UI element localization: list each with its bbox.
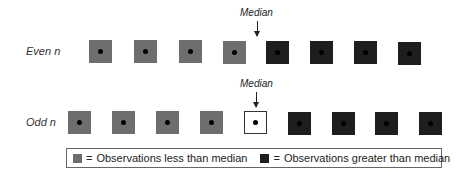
odd-median-observation <box>244 111 267 134</box>
even-observation-7 <box>354 41 377 64</box>
even-median-label: Median <box>240 7 273 18</box>
dot-icon <box>77 120 82 125</box>
legend: = Observations less than median = Observ… <box>66 148 442 168</box>
even-observation-3 <box>179 40 202 63</box>
less-swatch-icon <box>73 154 82 163</box>
dot-icon <box>165 120 170 125</box>
legend-greater-text: Observations greater than median <box>284 152 450 164</box>
dot-icon <box>143 49 148 54</box>
odd-observation-6 <box>288 112 311 135</box>
even-observation-1 <box>89 40 112 63</box>
dot-icon <box>253 120 258 125</box>
odd-observation-3 <box>156 111 179 134</box>
dot-icon <box>188 49 193 54</box>
dot-icon <box>363 50 368 55</box>
odd-observation-2 <box>112 111 135 134</box>
dot-icon <box>121 120 126 125</box>
odd-observation-1 <box>68 111 91 134</box>
odd-observation-8 <box>375 112 398 135</box>
dot-icon <box>275 50 280 55</box>
even-observation-4 <box>223 41 246 64</box>
legend-item-greater: = Observations greater than median <box>260 152 450 164</box>
dot-icon <box>407 51 412 56</box>
dot-icon <box>319 50 324 55</box>
odd-median-label: Median <box>240 78 273 89</box>
odd-observation-7 <box>332 112 355 135</box>
legend-less-equals: = <box>86 152 92 164</box>
odd-observation-4 <box>200 111 223 134</box>
legend-less-text: Observations less than median <box>96 152 247 164</box>
even-n-label: Even n <box>26 45 60 57</box>
legend-greater-equals: = <box>273 152 279 164</box>
greater-swatch-icon <box>260 154 269 163</box>
odd-median-arrow-icon <box>256 92 257 107</box>
even-observation-8 <box>398 42 421 65</box>
even-observation-6 <box>310 41 333 64</box>
dot-icon <box>209 120 214 125</box>
odd-observation-9 <box>419 112 442 135</box>
dot-icon <box>297 121 302 126</box>
dot-icon <box>98 49 103 54</box>
dot-icon <box>428 121 433 126</box>
legend-item-less: = Observations less than median <box>73 152 247 164</box>
even-observation-5 <box>266 41 289 64</box>
even-median-arrow-icon <box>257 21 258 36</box>
dot-icon <box>232 50 237 55</box>
odd-n-label: Odd n <box>26 116 56 128</box>
even-observation-2 <box>134 40 157 63</box>
dot-icon <box>384 121 389 126</box>
dot-icon <box>341 121 346 126</box>
